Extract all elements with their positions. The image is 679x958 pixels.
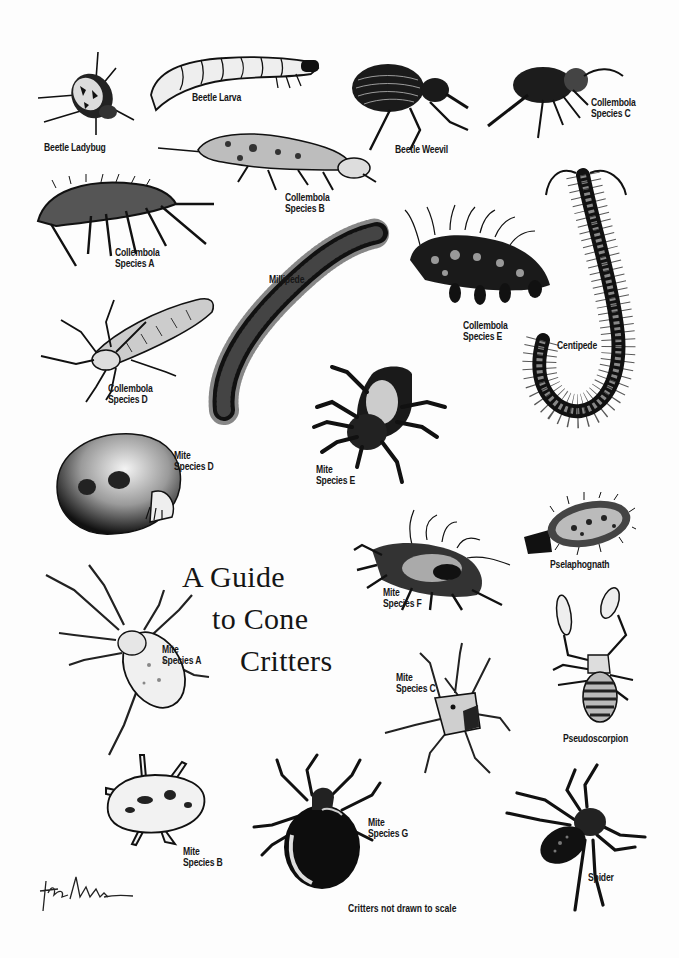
pselaphognath-label: Pselaphognath [550, 560, 609, 571]
poster-title-line-2: to Cone [212, 604, 308, 634]
scale-footnote: Critters not drawn to scale [348, 903, 456, 914]
pseudoscorpion-label: Pseudoscorpion [563, 734, 628, 745]
spider-label: Spider [588, 873, 614, 884]
millipede-label: Millipede [269, 275, 304, 286]
mite-g-label: MiteSpecies G [368, 818, 408, 839]
larva-icon [146, 50, 321, 115]
artist-signature-icon [38, 873, 133, 917]
pseudoscorpion-icon [548, 585, 643, 725]
mite-f-illustration [352, 510, 512, 615]
collembola-d-label: CollembolaSpecies D [108, 384, 153, 405]
mite-d-illustration [52, 432, 184, 537]
pseudoscorpion-illustration [548, 585, 643, 725]
mite-g-illustration [252, 755, 384, 890]
pselaphognath-icon [524, 492, 636, 560]
spider-icon [505, 765, 650, 915]
beetle-ladybug-illustration [36, 50, 136, 135]
mite-b-illustration [100, 750, 210, 845]
mite-c-illustration [385, 643, 515, 778]
mite-icon [100, 750, 210, 845]
pselaphognath-illustration [524, 492, 636, 560]
centipede-icon [528, 165, 648, 427]
collembola-b-label: CollembolaSpecies B [285, 193, 330, 214]
beetle-weevil-label: Beetle Weevil [395, 145, 448, 156]
centipede-label: Centipede [557, 341, 597, 352]
ladybug-icon [36, 50, 136, 135]
tick-icon [252, 755, 384, 890]
mite-icon [385, 643, 515, 778]
centipede-illustration [528, 165, 648, 427]
poster-title-line-3: Critters [240, 646, 332, 676]
mite-icon [52, 432, 184, 537]
spider-illustration [505, 765, 650, 915]
collembola-a-label: CollembolaSpecies A [115, 248, 160, 269]
beetle-larva-label: Beetle Larva [192, 93, 241, 104]
mite-b-label: MiteSpecies B [183, 847, 223, 868]
mite-c-label: MiteSpecies C [396, 673, 436, 694]
mite-a-label: MiteSpecies A [162, 645, 201, 666]
mite-f-label: MiteSpecies F [383, 588, 422, 609]
mite-icon [352, 510, 512, 615]
collembola-e-label: CollembolaSpecies E [463, 321, 508, 342]
collembola-c-label: CollembolaSpecies C [591, 98, 636, 119]
mite-e-label: MiteSpecies E [316, 465, 355, 486]
beetle-ladybug-label: Beetle Ladybug [44, 143, 106, 154]
critter-guide-poster: Beetle Ladybug Beetle Larva Beetle Weevi… [0, 0, 679, 958]
beetle-larva-illustration [146, 50, 321, 115]
mite-d-label: MiteSpecies D [174, 451, 214, 472]
